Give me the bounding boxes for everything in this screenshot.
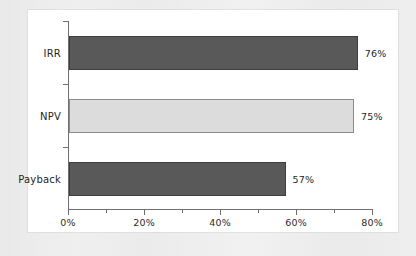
bar-value-label-npv: 75% [361, 110, 383, 121]
x-tick-label: 40% [209, 217, 231, 228]
bar-npv[interactable] [69, 99, 354, 133]
x-tick-label: 80% [361, 217, 383, 228]
x-tick-minor [106, 210, 107, 213]
x-tick-label: 20% [133, 217, 155, 228]
bar-payback[interactable] [69, 162, 286, 196]
x-tick-label: 60% [285, 217, 307, 228]
x-tick-major [220, 210, 221, 215]
y-tick [63, 147, 68, 148]
x-tick-minor [334, 210, 335, 213]
category-label-npv: NPV [40, 110, 61, 121]
x-tick-minor [258, 210, 259, 213]
chart-panel: 0%20%40%60%80% 76%75%57% IRRNPVPayback [28, 10, 398, 232]
category-label-payback: Payback [18, 173, 61, 184]
x-tick-major [68, 210, 69, 215]
category-label-irr: IRR [44, 47, 61, 58]
chart-screenshot: 0%20%40%60%80% 76%75%57% IRRNPVPayback [0, 0, 416, 256]
x-tick-major [144, 210, 145, 215]
x-tick-label: 0% [60, 217, 75, 228]
plot-area: 0%20%40%60%80% 76%75%57% IRRNPVPayback [68, 21, 372, 210]
x-tick-major [372, 210, 373, 215]
bar-value-label-payback: 57% [293, 173, 315, 184]
bar-irr[interactable] [69, 36, 358, 70]
x-tick-major [296, 210, 297, 215]
y-axis-top-tick [63, 21, 68, 22]
bar-value-label-irr: 76% [365, 47, 387, 58]
x-tick-minor [182, 210, 183, 213]
y-tick [63, 84, 68, 85]
